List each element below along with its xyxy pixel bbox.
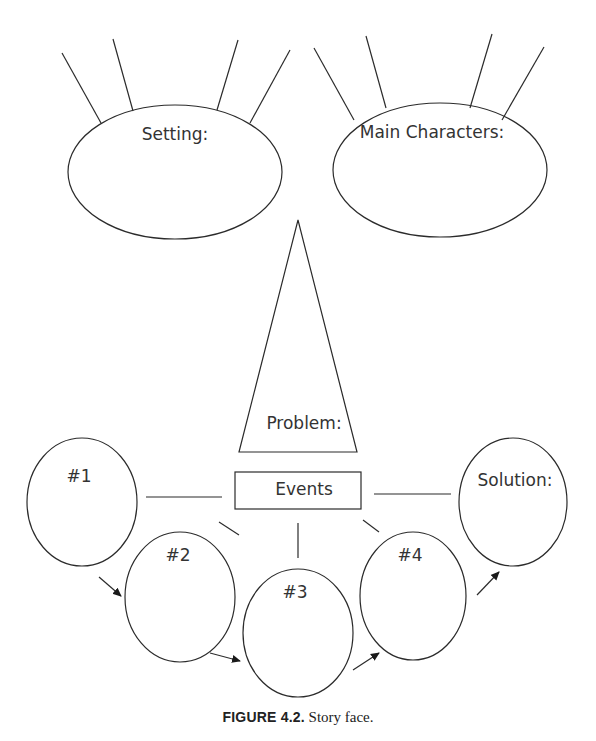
main-characters-label: Main Characters:	[360, 122, 505, 142]
arrow-event-3-to-4	[353, 653, 379, 670]
main-characters-ray	[502, 47, 544, 120]
figure-caption: FIGURE 4.2. Story face.	[222, 709, 373, 726]
event-2-label: #2	[165, 545, 190, 565]
main-characters-ray	[366, 36, 386, 108]
story-face-diagram	[0, 0, 596, 741]
setting-ray	[217, 40, 238, 110]
solution-label: Solution:	[478, 470, 553, 490]
event-1-label: #1	[66, 466, 91, 486]
setting-ray	[113, 39, 133, 111]
main-characters-ray	[314, 48, 354, 120]
figure-number: FIGURE 4.2.	[222, 709, 304, 725]
arrow-event-2-to-3	[210, 653, 240, 661]
event-3-label: #3	[282, 582, 307, 602]
setting-ray	[250, 50, 290, 123]
setting-ray	[62, 53, 101, 123]
events-label: Events	[275, 479, 333, 499]
connector-line-event-4	[363, 520, 379, 532]
arrow-event-4-to-solution	[477, 572, 499, 595]
setting-label: Setting:	[142, 124, 209, 144]
problem-label: Problem:	[266, 413, 341, 433]
event-4-label: #4	[397, 545, 422, 565]
figure-caption-text: Story face.	[309, 709, 374, 725]
event-1-ellipse	[27, 438, 137, 566]
solution-ellipse	[459, 438, 567, 566]
arrow-event-1-to-2	[99, 577, 121, 596]
main-characters-ray	[470, 34, 492, 108]
connector-line-event-2	[219, 522, 239, 535]
